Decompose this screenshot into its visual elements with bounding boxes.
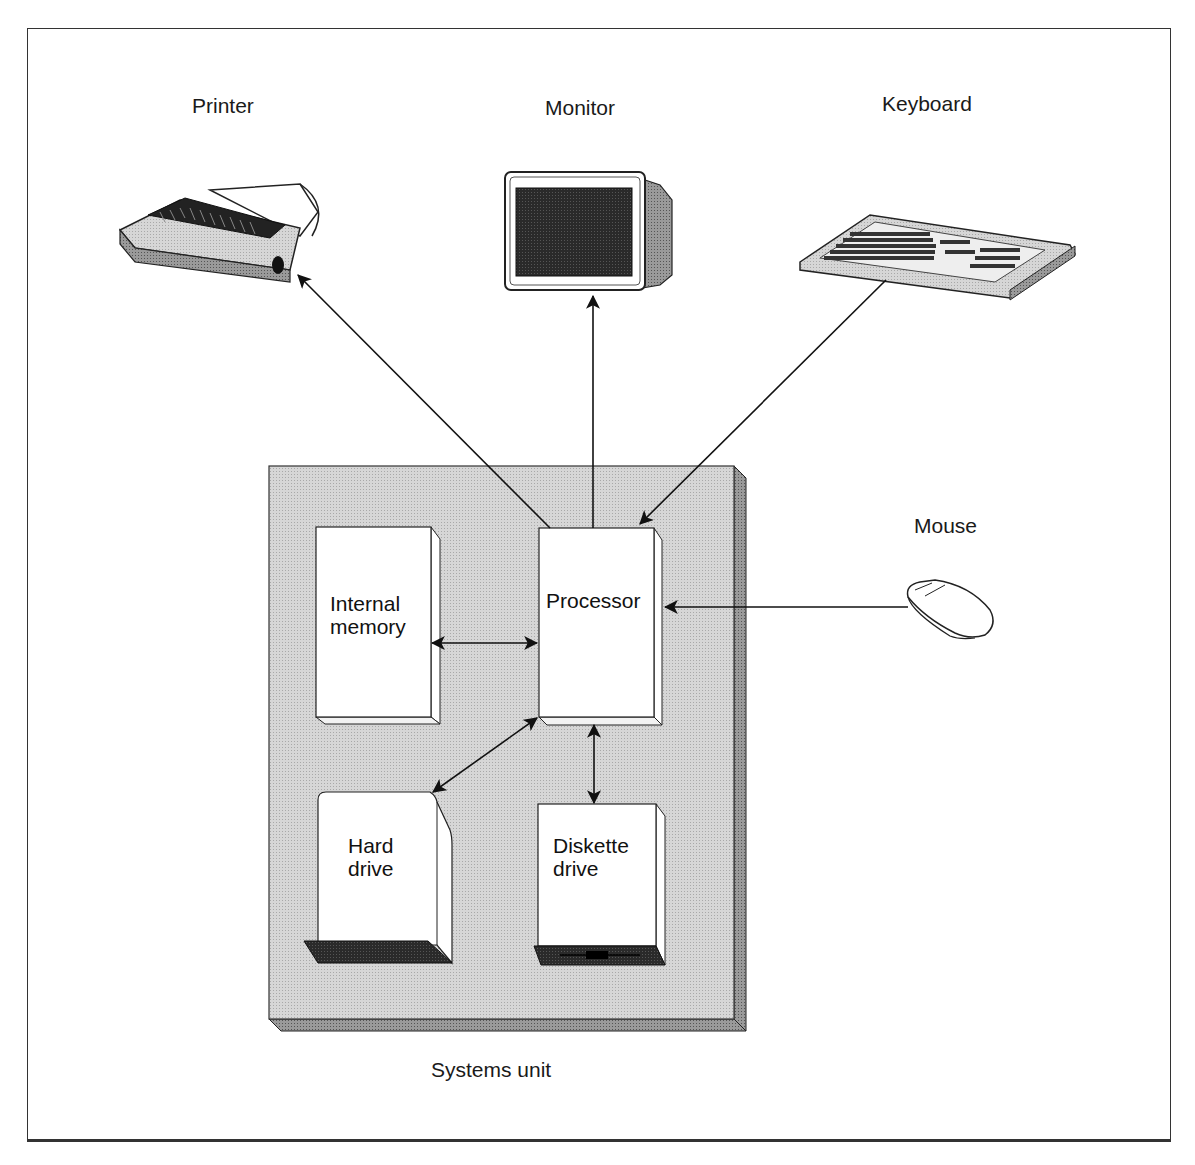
processor-box (539, 528, 662, 725)
keyboard-label: Keyboard (882, 92, 972, 116)
processor-label: Processor (546, 589, 641, 612)
diskette-drive-label: Diskette drive (553, 834, 629, 880)
diskette-drive-box (534, 804, 665, 965)
monitor-icon (505, 172, 672, 290)
keyboard-icon (800, 215, 1075, 300)
diagram-canvas (0, 0, 1195, 1165)
processor-label-line1: Processor (546, 589, 641, 612)
hard-drive-label-line1: Hard (348, 834, 394, 857)
mouse-icon (908, 580, 994, 639)
internal-memory-label: Internal memory (330, 592, 406, 638)
diskette-drive-label-line2: drive (553, 857, 629, 880)
hard-drive-label: Hard drive (348, 834, 394, 880)
hard-drive-label-line2: drive (348, 857, 394, 880)
systems-unit-label: Systems unit (431, 1058, 551, 1082)
arrow-keyboard-to-processor (640, 280, 886, 524)
printer-label: Printer (192, 94, 254, 118)
internal-memory-label-line2: memory (330, 615, 406, 638)
printer-icon (120, 184, 319, 282)
diskette-drive-label-line1: Diskette (553, 834, 629, 857)
mouse-label: Mouse (914, 514, 977, 538)
monitor-label: Monitor (545, 96, 615, 120)
internal-memory-label-line1: Internal (330, 592, 406, 615)
